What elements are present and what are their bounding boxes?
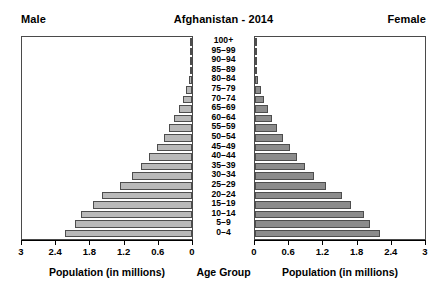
axis-tick [21, 240, 22, 245]
axis-tick-label: 1.8 [350, 246, 363, 257]
male-bar-row [22, 229, 192, 239]
female-bar-row [255, 95, 425, 105]
female-bar-row [255, 47, 425, 57]
male-bar [102, 192, 192, 200]
axis-tick-label: 1.8 [83, 246, 96, 257]
female-bar-row [255, 181, 425, 191]
male-bar-row [22, 47, 192, 57]
axis-tick [192, 240, 193, 245]
male-bar-row [22, 66, 192, 76]
male-bar [190, 48, 192, 56]
male-bar [190, 57, 192, 65]
axis-tick-label: 0.6 [151, 246, 164, 257]
male-axis-caption: Population (in millions) [21, 266, 193, 278]
female-bar [255, 38, 257, 46]
female-bar [255, 48, 257, 56]
male-bar [183, 96, 192, 104]
male-bar [179, 105, 192, 113]
female-bar [255, 211, 364, 219]
male-bar [190, 38, 192, 46]
female-bar [255, 153, 297, 161]
female-bar-row [255, 37, 425, 47]
male-bar [169, 124, 192, 132]
male-bar-row [22, 171, 192, 181]
male-bar [65, 230, 192, 238]
chart-title: Afghanistan - 2014 [0, 13, 447, 25]
female-bar [255, 134, 283, 142]
female-bar-row [255, 143, 425, 153]
male-bar-row [22, 210, 192, 220]
male-bar-row [22, 152, 192, 162]
female-x-tick-labels: 00.61.21.82.43 [254, 246, 426, 260]
male-bar [120, 182, 192, 190]
female-bar [255, 192, 342, 200]
female-bar-row [255, 56, 425, 66]
male-bar-rows [22, 37, 192, 239]
female-bar-row [255, 123, 425, 133]
male-bar-row [22, 85, 192, 95]
male-bar-row [22, 37, 192, 47]
female-bar [255, 105, 268, 113]
axis-tick [158, 240, 159, 245]
male-bar-row [22, 114, 192, 124]
female-bar-row [255, 162, 425, 172]
axis-tick-label: 2.4 [384, 246, 397, 257]
male-bar [164, 134, 192, 142]
female-legend-label: Female [387, 13, 426, 25]
male-bar [174, 115, 192, 123]
male-bar [141, 163, 192, 171]
female-plot-panel [254, 36, 426, 240]
age-group-label-column: 100+95–9990–9485–8980–8475–7970–7465–696… [193, 36, 254, 240]
male-bar-row [22, 200, 192, 210]
male-bar [189, 76, 192, 84]
age-group-label: 0–4 [193, 228, 254, 238]
axis-tick-label: 2.4 [49, 246, 62, 257]
axis-tick [89, 240, 90, 245]
female-bar [255, 86, 261, 94]
male-plot-panel [21, 36, 193, 240]
axis-tick [322, 240, 323, 245]
age-group-caption: Age Group [193, 266, 254, 278]
male-x-tick-labels: 32.41.81.20.60 [21, 246, 193, 260]
female-bar [255, 163, 305, 171]
male-bar-row [22, 162, 192, 172]
axis-tick-label: 3 [18, 246, 23, 257]
male-bar [190, 67, 192, 75]
male-bar [149, 153, 192, 161]
female-bar-row [255, 229, 425, 239]
male-bar-row [22, 219, 192, 229]
female-bar [255, 182, 326, 190]
axis-tick [288, 240, 289, 245]
male-bar [81, 211, 192, 219]
male-bar-row [22, 191, 192, 201]
female-bar-row [255, 219, 425, 229]
female-axis-line [254, 240, 426, 241]
female-bar-row [255, 200, 425, 210]
female-bar-row [255, 133, 425, 143]
female-bar-row [255, 85, 425, 95]
axis-tick-label: 0.6 [282, 246, 295, 257]
female-bar [255, 220, 370, 228]
female-bar-row [255, 75, 425, 85]
male-bar [186, 86, 192, 94]
female-bar-row [255, 152, 425, 162]
population-pyramid-chart: Male Afghanistan - 2014 Female 100+95–99… [0, 0, 447, 293]
female-bar-row [255, 114, 425, 124]
female-bar [255, 67, 257, 75]
female-bar-rows [255, 37, 425, 239]
female-bar [255, 230, 380, 238]
axis-tick [55, 240, 56, 245]
female-bar [255, 172, 314, 180]
male-bar-row [22, 104, 192, 114]
male-bar-row [22, 143, 192, 153]
axis-tick [391, 240, 392, 245]
female-axis-caption: Population (in millions) [254, 266, 426, 278]
male-bar [75, 220, 192, 228]
female-bar-row [255, 210, 425, 220]
male-axis-line [21, 240, 193, 241]
axis-tick [124, 240, 125, 245]
axis-tick [425, 240, 426, 245]
axis-tick-label: 1.2 [117, 246, 130, 257]
male-bar [93, 201, 192, 209]
female-bar-row [255, 171, 425, 181]
